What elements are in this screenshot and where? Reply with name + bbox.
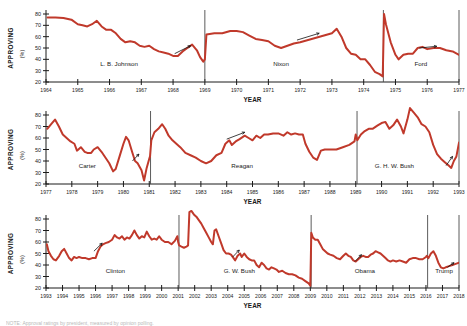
y-tick-label: 80 bbox=[35, 216, 41, 222]
y-axis-unit: (%) bbox=[19, 50, 25, 59]
x-tick-label: 2017 bbox=[437, 293, 448, 299]
x-tick-label: 1978 bbox=[66, 189, 77, 195]
y-tick-label: 50 bbox=[35, 251, 41, 257]
x-tick-label: 2011 bbox=[338, 293, 349, 299]
x-tick-label: 2009 bbox=[305, 293, 316, 299]
y-tick-label: 80 bbox=[35, 112, 41, 118]
x-tick-label: 1970 bbox=[231, 87, 242, 93]
x-tick-label: 1999 bbox=[139, 293, 150, 299]
x-tick-label: 1980 bbox=[118, 189, 129, 195]
x-tick-label: 2012 bbox=[354, 293, 365, 299]
x-tick-label: 1964 bbox=[40, 87, 51, 93]
y-tick-label: 30 bbox=[35, 68, 41, 74]
x-tick-label: 1977 bbox=[453, 87, 464, 93]
x-axis-title: YEAR bbox=[244, 302, 262, 309]
x-axis-title: YEAR bbox=[244, 96, 262, 103]
y-tick-label: 70 bbox=[35, 124, 41, 130]
y-tick-label: 40 bbox=[35, 56, 41, 62]
x-tick-label: 1990 bbox=[376, 189, 387, 195]
x-tick-label: 1987 bbox=[298, 189, 309, 195]
president-label: Carter bbox=[79, 162, 96, 169]
x-tick-label: 2015 bbox=[404, 293, 415, 299]
president-label: Reagan bbox=[231, 162, 253, 169]
y-tick-label: 60 bbox=[35, 135, 41, 141]
chart-svg-3: 2030405060708019931994199519961997199819… bbox=[0, 209, 467, 326]
chart-panel-3: 2030405060708019931994199519961997199819… bbox=[0, 209, 467, 326]
x-tick-label: 1969 bbox=[199, 87, 210, 93]
y-tick-label: 70 bbox=[35, 228, 41, 234]
x-tick-label: 1972 bbox=[294, 87, 305, 93]
x-tick-label: 2004 bbox=[222, 293, 233, 299]
y-tick-label: 50 bbox=[35, 147, 41, 153]
x-tick-label: 2001 bbox=[172, 293, 183, 299]
x-tick-label: 2006 bbox=[255, 293, 266, 299]
x-tick-label: 2008 bbox=[288, 293, 299, 299]
y-axis-title: APPROVING bbox=[7, 27, 14, 69]
y-axis-title: APPROVING bbox=[7, 233, 14, 275]
y-tick-label: 30 bbox=[35, 274, 41, 280]
x-tick-label: 1974 bbox=[358, 87, 369, 93]
y-tick-label: 40 bbox=[35, 262, 41, 268]
x-tick-label: 1985 bbox=[247, 189, 258, 195]
x-tick-label: 2013 bbox=[371, 293, 382, 299]
x-tick-label: 1982 bbox=[169, 189, 180, 195]
x-tick-label: 1977 bbox=[40, 189, 51, 195]
y-axis-unit: (%) bbox=[19, 151, 25, 160]
x-tick-label: 1998 bbox=[123, 293, 134, 299]
president-label: Obama bbox=[355, 267, 376, 274]
x-tick-label: 1966 bbox=[104, 87, 115, 93]
x-tick-label: 1994 bbox=[57, 293, 68, 299]
y-tick-label: 20 bbox=[35, 285, 41, 291]
president-label: Nixon bbox=[273, 60, 289, 67]
x-tick-label: 1965 bbox=[72, 87, 83, 93]
approval-figure: 2030405060708019641965196619671968196919… bbox=[0, 0, 467, 326]
x-tick-label: 1971 bbox=[263, 87, 274, 93]
x-tick-label: 1983 bbox=[195, 189, 206, 195]
y-tick-label: 50 bbox=[35, 45, 41, 51]
x-tick-label: 2007 bbox=[272, 293, 283, 299]
x-tick-label: 1993 bbox=[40, 293, 51, 299]
x-tick-label: 1984 bbox=[221, 189, 232, 195]
y-tick-label: 30 bbox=[35, 170, 41, 176]
chart-panel-1: 2030405060708019641965196619671968196919… bbox=[0, 0, 467, 105]
x-tick-label: 2005 bbox=[239, 293, 250, 299]
x-axis-title: YEAR bbox=[244, 198, 262, 205]
y-tick-label: 60 bbox=[35, 34, 41, 40]
president-label: Ford bbox=[415, 60, 428, 67]
y-tick-label: 80 bbox=[35, 11, 41, 17]
y-tick-label: 70 bbox=[35, 22, 41, 28]
president-label: L. B. Johnson bbox=[100, 60, 138, 67]
x-tick-label: 2002 bbox=[189, 293, 200, 299]
x-tick-label: 1997 bbox=[106, 293, 117, 299]
x-tick-label: 1975 bbox=[390, 87, 401, 93]
chart-panel-2: 2030405060708019771978197919801981198219… bbox=[0, 105, 467, 209]
chart-svg-1: 2030405060708019641965196619671968196919… bbox=[0, 0, 467, 105]
x-tick-label: 2010 bbox=[321, 293, 332, 299]
x-tick-label: 1993 bbox=[453, 189, 464, 195]
x-tick-label: 1968 bbox=[167, 87, 178, 93]
x-tick-label: 1976 bbox=[422, 87, 433, 93]
approval-series-line bbox=[47, 211, 459, 286]
x-tick-label: 1986 bbox=[273, 189, 284, 195]
y-tick-label: 60 bbox=[35, 239, 41, 245]
y-tick-label: 20 bbox=[35, 79, 41, 85]
president-label: Clinton bbox=[106, 267, 126, 274]
x-tick-label: 1996 bbox=[90, 293, 101, 299]
president-label: G. W. Bush bbox=[224, 267, 256, 274]
figure-caption: NOTE: Approval ratings by president, mea… bbox=[6, 320, 154, 326]
approval-series-line bbox=[47, 108, 459, 180]
y-tick-label: 40 bbox=[35, 158, 41, 164]
x-tick-label: 1973 bbox=[326, 87, 337, 93]
president-label: G. H. W. Bush bbox=[375, 162, 415, 169]
x-tick-label: 2000 bbox=[156, 293, 167, 299]
x-tick-label: 2014 bbox=[387, 293, 398, 299]
x-tick-label: 1995 bbox=[73, 293, 84, 299]
president-label: Trump bbox=[435, 267, 453, 274]
x-tick-label: 2003 bbox=[206, 293, 217, 299]
x-tick-label: 2018 bbox=[453, 293, 464, 299]
x-tick-label: 1992 bbox=[428, 189, 439, 195]
x-tick-label: 1981 bbox=[144, 189, 155, 195]
x-tick-label: 1989 bbox=[350, 189, 361, 195]
x-tick-label: 1991 bbox=[402, 189, 413, 195]
y-axis-title: APPROVING bbox=[7, 129, 14, 171]
